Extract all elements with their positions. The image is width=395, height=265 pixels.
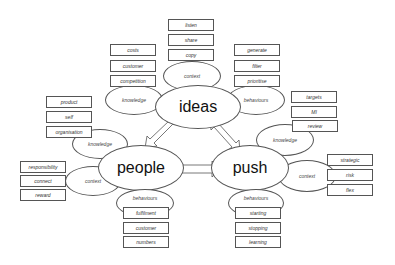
ideas-context-item: listen [168,19,214,31]
ideas-hub-label: ideas [179,98,217,116]
item-text: review [308,123,322,129]
ideas-knowledge-item: customer [110,60,156,72]
item-text: risk [346,172,354,178]
push-context-label: context [299,173,315,179]
push-behaviours-label: behaviours [244,195,268,201]
ideas-behaviours-item: generate [234,44,280,56]
push-knowledge-item: MI [291,106,337,118]
ideas-knowledge-item: competition [110,75,156,87]
ideas-context-label: context [184,73,200,79]
people-context-item: reward [20,189,66,201]
item-text: organisation [55,129,82,135]
item-text: targets [306,94,321,100]
item-text: copy [186,52,197,58]
item-text: customer [123,63,144,69]
push-hub: push [211,145,289,191]
people-behaviours-item: fulfilment [123,207,169,219]
item-text: customer [136,225,157,231]
arrow-ideas-people [145,120,174,148]
item-text: connect [34,178,52,184]
ideas-knowledge-item: costs [110,44,156,56]
push-knowledge-item: review [292,120,338,132]
item-text: fulfilment [136,210,156,216]
people-context-label: context [85,178,101,184]
item-text: prioritise [248,78,267,84]
ideas-context-item: share [168,34,214,46]
ideas-behaviours-item: prioritise [234,75,280,87]
ideas-behaviours-label: behaviours [244,97,268,103]
push-knowledge-item: targets [291,91,337,103]
push-behaviours-item: stopping [235,222,281,234]
item-text: share [185,37,198,43]
people-knowledge-item: self [46,111,92,123]
people-hub-label: people [117,159,165,177]
item-text: costs [127,47,139,53]
item-text: stopping [249,225,268,231]
push-context-item: flex [327,184,373,196]
item-text: numbers [136,239,155,245]
push-context-item: risk [327,169,373,181]
ideas-hub: ideas [155,85,241,129]
item-text: flex [346,187,354,193]
people-hub: people [98,145,184,191]
people-behaviours-item: numbers [123,236,169,248]
people-context-item: responsibility [20,161,66,173]
people-behaviours-label: behaviours [133,195,157,201]
item-text: responsibility [29,164,58,170]
ideas-context-item: copy [168,49,214,61]
push-hub-label: push [233,159,268,177]
item-text: generate [247,47,267,53]
item-text: MI [311,109,317,115]
item-text: starting [250,210,266,216]
push-context-item: strategic [327,154,373,166]
push-knowledge-label: knowledge [273,137,297,143]
item-text: reward [35,192,50,198]
people-knowledge-item: organisation [46,126,92,138]
push-behaviours-item: learning [235,236,281,248]
people-knowledge-item: product [46,96,92,108]
item-text: learning [249,239,267,245]
people-knowledge-label: knowledge [88,141,112,147]
ideas-behaviours-item: filter [234,60,280,72]
item-text: listen [185,22,197,28]
item-text: competition [120,78,146,84]
people-context-item: connect [20,175,66,187]
item-text: product [61,99,78,105]
push-behaviours-item: starting [235,207,281,219]
item-text: strategic [341,157,360,163]
item-text: self [65,114,73,120]
people-behaviours-item: customer [123,222,169,234]
ideas-knowledge-label: knowledge [122,97,146,103]
item-text: filter [252,63,261,69]
ideas-knowledge-ellipse: knowledge [105,85,163,115]
